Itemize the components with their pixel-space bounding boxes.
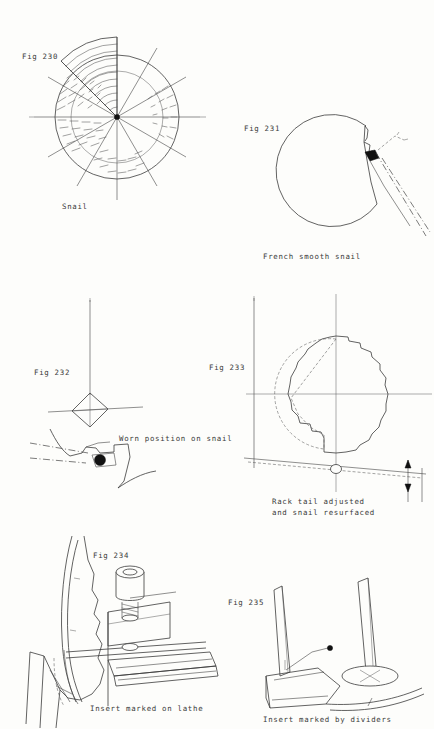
- illustration-page: Fig 230 Snail Fig 231 French smooth snai…: [0, 0, 434, 729]
- fig-230-label: Fig 230: [22, 52, 58, 62]
- fig-230-caption: Snail: [62, 202, 88, 213]
- fig-233-label: Fig 233: [209, 363, 245, 373]
- fig-233-drawing: [236, 292, 434, 502]
- fig-231-drawing: [258, 108, 434, 248]
- fig-234-drawing: [20, 534, 220, 729]
- figure-231: [258, 108, 434, 248]
- figure-234: [20, 534, 220, 729]
- fig-235-drawing: [240, 548, 430, 718]
- fig-231-label: Fig 231: [244, 124, 280, 134]
- fig-235-caption: Insert marked by dividers: [263, 715, 392, 726]
- fig-235-label: Fig 235: [228, 598, 264, 608]
- fig-233-caption-line-1: Rack tail adjusted: [272, 497, 365, 506]
- fig-232-drawing: [10, 295, 210, 485]
- figure-233: [236, 292, 434, 502]
- fig-233-caption-line-2: and snail resurfaced: [272, 508, 375, 517]
- fig-232-label: Fig 232: [34, 368, 70, 378]
- fig-233-caption: Rack tail adjustedand snail resurfaced: [272, 497, 375, 518]
- figure-230: [22, 20, 212, 210]
- figure-235: [240, 548, 430, 718]
- figure-232: [10, 295, 210, 485]
- fig-234-label: Fig 234: [93, 551, 129, 561]
- fig-230-drawing: [22, 20, 212, 210]
- fig-232-caption: Worn position on snail: [119, 434, 232, 445]
- fig-231-caption: French smooth snail: [263, 252, 361, 263]
- fig-234-caption: Insert marked on lathe: [90, 704, 203, 715]
